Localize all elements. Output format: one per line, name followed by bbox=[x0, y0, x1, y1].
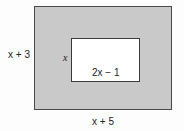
outer-width-label: x + 5 bbox=[92, 117, 114, 127]
outer-height-label: x + 3 bbox=[8, 50, 30, 60]
inner-height-label: x bbox=[63, 53, 67, 63]
diagram-canvas: x + 3 x 2x − 1 x + 5 bbox=[0, 0, 184, 131]
inner-width-label: 2x − 1 bbox=[92, 68, 120, 78]
